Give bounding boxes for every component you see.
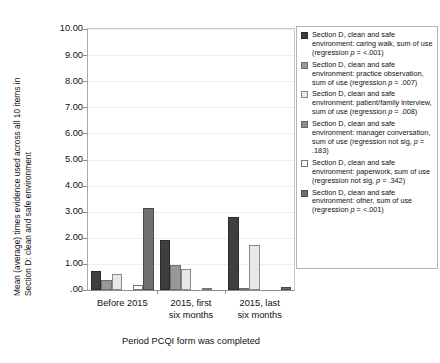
plot-area	[87, 28, 295, 291]
x-axis-title: Period PCQI form was completed	[60, 336, 322, 346]
legend: Section D, clean and safe environment: c…	[296, 26, 438, 269]
y-tick-label: 8.00	[65, 77, 83, 86]
y-tick-label: 10.00	[60, 24, 83, 33]
gridline	[88, 160, 294, 161]
legend-label: Section D, clean and safe environment: c…	[312, 31, 434, 58]
bar	[202, 288, 213, 290]
bar-chart: Mean (average) times evidence used acros…	[0, 0, 440, 363]
group-separator	[225, 290, 226, 294]
legend-swatch	[301, 160, 308, 167]
y-tick-label: 7.00	[65, 103, 83, 112]
x-tick-label-line: six months	[215, 310, 305, 322]
y-tick-label: 2.00	[65, 233, 83, 242]
legend-swatch	[301, 121, 308, 128]
legend-label: Section D, clean and safe environment: p…	[312, 90, 434, 117]
gridline	[88, 264, 294, 265]
legend-label: Section D, clean and safe environment: o…	[312, 189, 434, 216]
bar	[281, 287, 292, 290]
legend-label: Section D, clean and safe environment: p…	[312, 159, 434, 186]
gridline	[88, 238, 294, 239]
legend-label: Section D, clean and safe environment: p…	[312, 61, 434, 88]
gridline	[88, 29, 294, 30]
gridline	[88, 81, 294, 82]
y-tick-label: 3.00	[65, 207, 83, 216]
legend-swatch	[301, 91, 308, 98]
gridline	[88, 186, 294, 187]
y-axis-title: Mean (average) times evidence used acros…	[0, 0, 34, 300]
legend-item[interactable]: Section D, clean and safe environment: p…	[301, 90, 434, 117]
bar	[133, 285, 144, 290]
bar	[239, 288, 250, 290]
legend-item[interactable]: Section D, clean and safe environment: o…	[301, 189, 434, 216]
gridline	[88, 55, 294, 56]
legend-swatch	[301, 62, 308, 69]
bar	[181, 269, 192, 290]
bar	[91, 271, 102, 290]
bar	[112, 274, 123, 290]
legend-item[interactable]: Section D, clean and safe environment: p…	[301, 159, 434, 186]
gridline	[88, 107, 294, 108]
gridline	[88, 212, 294, 213]
legend-item[interactable]: Section D, clean and safe environment: p…	[301, 61, 434, 88]
y-tick-label: 9.00	[65, 51, 83, 60]
group-separator	[157, 290, 158, 294]
legend-item[interactable]: Section D, clean and safe environment: c…	[301, 31, 434, 58]
gridline	[88, 133, 294, 134]
bar	[160, 240, 171, 290]
legend-label: Section D, clean and safe environment: m…	[312, 120, 434, 156]
y-tick-label: 4.00	[65, 181, 83, 190]
bar	[249, 245, 260, 290]
bar	[143, 208, 154, 290]
bar	[101, 280, 112, 290]
y-tick-label: 5.00	[65, 155, 83, 164]
legend-item[interactable]: Section D, clean and safe environment: m…	[301, 120, 434, 156]
y-tick-label: 6.00	[65, 129, 83, 138]
legend-swatch	[301, 190, 308, 197]
legend-swatch	[301, 32, 308, 39]
x-tick-label-line: 2015, last	[215, 298, 305, 310]
y-tick-label: 1.00	[65, 259, 83, 268]
y-axis-title-line-1: Mean (average) times evidence used acros…	[12, 78, 22, 296]
x-tick-label: 2015, lastsix months	[215, 298, 305, 321]
bar	[228, 217, 239, 290]
bar	[170, 265, 181, 290]
y-axis-title-line-2: Section D: clean and safe environment	[23, 152, 33, 296]
